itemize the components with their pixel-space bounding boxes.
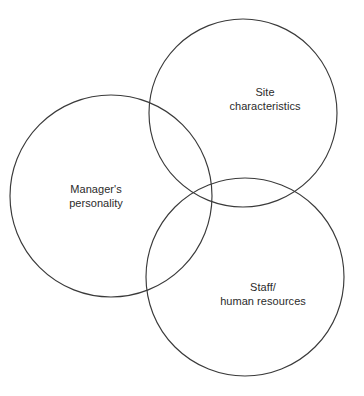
venn-diagram: Manager's personality Site characteristi… [0,0,364,396]
circle-managers-personality [10,95,212,297]
venn-diagram-canvas [0,0,364,396]
circle-staff-human-resources [146,178,344,376]
circle-site-characteristics [149,19,337,207]
